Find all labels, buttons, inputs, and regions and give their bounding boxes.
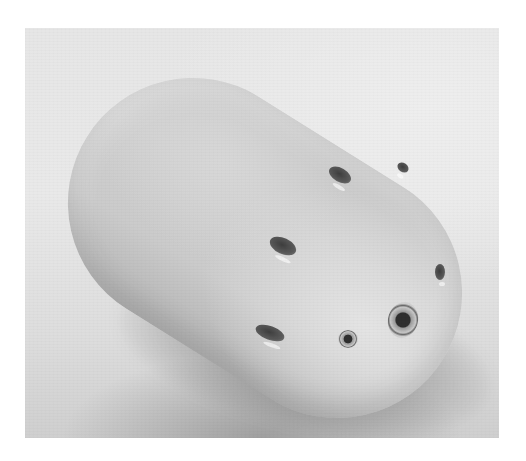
capsule-object — [25, 31, 499, 438]
hole-right-edge — [435, 264, 445, 280]
hole-top-right-edge — [396, 160, 411, 174]
photo — [25, 28, 499, 438]
small-front-hole — [338, 330, 358, 348]
